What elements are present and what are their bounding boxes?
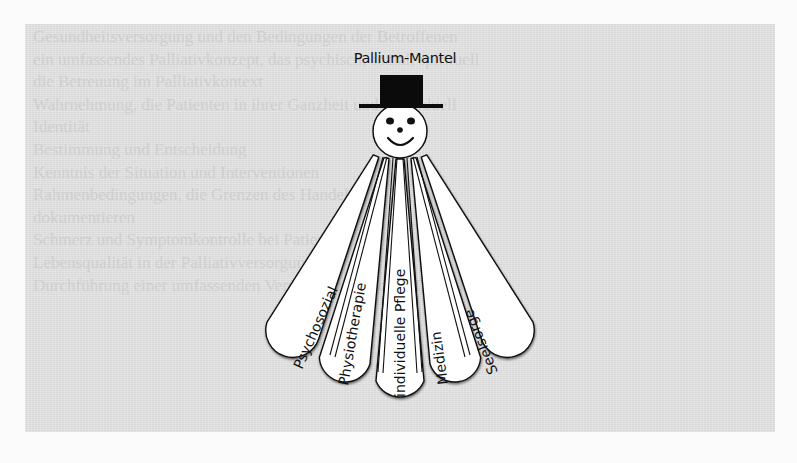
petal-label-individuelle-pflege: individuelle Pflege bbox=[392, 269, 408, 397]
top-hat-icon bbox=[359, 75, 443, 108]
smiley-face-icon bbox=[373, 104, 427, 158]
pallium-mantel-figure: Psychosozial Physiotherapie individuelle… bbox=[0, 0, 797, 463]
